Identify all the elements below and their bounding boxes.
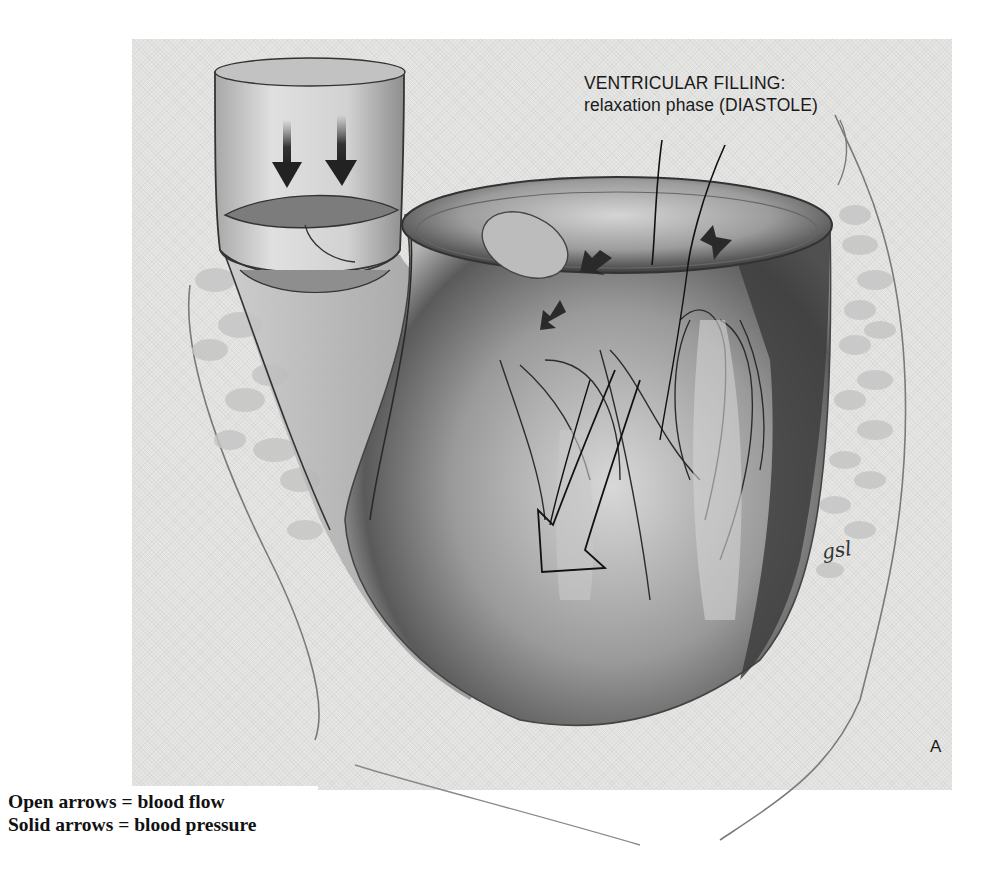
legend-item-solid-arrows: Solid arrows = blood pressure bbox=[8, 813, 318, 836]
figure-title: VENTRICULAR FILLING: relaxation phase (D… bbox=[584, 72, 818, 116]
atrium-chamber bbox=[215, 60, 404, 277]
title-line-1: VENTRICULAR FILLING: bbox=[584, 72, 818, 94]
heart-ventricle-illustration bbox=[0, 0, 989, 891]
legend-item-open-arrows: Open arrows = blood flow bbox=[8, 790, 318, 813]
panel-label: A bbox=[930, 737, 941, 757]
title-line-2: relaxation phase (DIASTOLE) bbox=[584, 94, 818, 116]
artist-signature: gsl bbox=[820, 536, 853, 564]
legend: Open arrows = blood flow Solid arrows = … bbox=[0, 786, 318, 838]
